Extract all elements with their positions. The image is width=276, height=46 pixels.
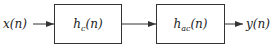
input-label: x(n)	[3, 17, 27, 31]
connector-arrows	[0, 0, 276, 46]
output-label: y(n)	[246, 17, 270, 31]
block-hac: hac(n)	[156, 4, 225, 44]
block-hc: hc(n)	[54, 4, 122, 44]
block-hac-label: hac(n)	[157, 17, 224, 36]
block-hc-label: hc(n)	[55, 17, 121, 36]
